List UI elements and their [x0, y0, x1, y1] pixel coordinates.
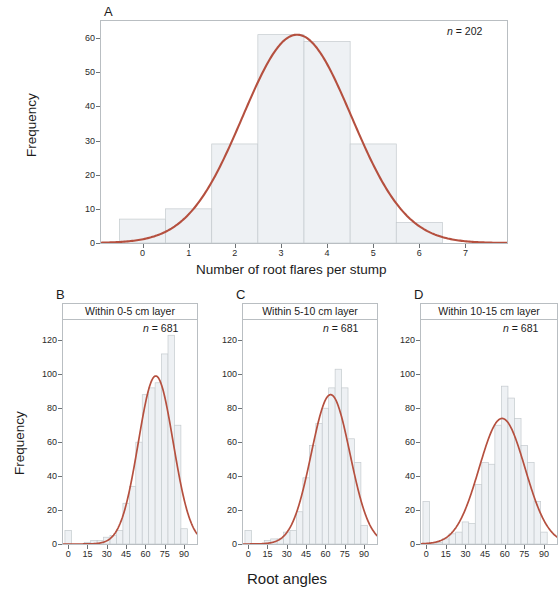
- histogram-bar: [541, 532, 548, 544]
- x-axis-tick-mark: [325, 545, 326, 549]
- x-axis-tick-label: 3: [278, 248, 283, 258]
- histogram-bar: [155, 383, 161, 544]
- x-axis-tick-mark: [287, 545, 288, 549]
- x-axis-tick-label: 6: [417, 248, 422, 258]
- y-axis-tick-mark: [238, 544, 242, 545]
- histogram-bar: [482, 463, 489, 544]
- y-axis-tick-mark: [58, 340, 62, 341]
- y-axis-tick-label: 40: [210, 471, 237, 481]
- histogram-bar: [462, 522, 469, 544]
- y-axis-tick-label: 20: [68, 170, 95, 180]
- histogram-bar: [423, 502, 430, 544]
- x-axis-tick-mark: [189, 244, 190, 248]
- x-axis-tick-mark: [544, 545, 545, 549]
- x-axis-tick-label: 2: [232, 248, 237, 258]
- histogram-bar: [136, 442, 142, 544]
- x-axis-tick-label: 60: [500, 549, 510, 559]
- x-axis-tick-label: 45: [480, 549, 490, 559]
- x-axis-tick-mark: [267, 545, 268, 549]
- x-axis-tick-label: 75: [160, 549, 170, 559]
- y-axis-tick-mark: [96, 38, 100, 39]
- x-axis-tick-mark: [419, 244, 420, 248]
- x-axis-tick-mark: [345, 545, 346, 549]
- x-axis-tick-label: 45: [301, 549, 311, 559]
- panel-c-n-value: 681: [341, 322, 359, 334]
- x-axis-tick-label: 90: [539, 549, 549, 559]
- y-axis-tick-mark: [416, 476, 420, 477]
- y-axis-tick-mark: [238, 510, 242, 511]
- y-axis-tick-label: 10: [68, 204, 95, 214]
- y-axis-tick-mark: [96, 106, 100, 107]
- y-axis-tick-mark: [416, 510, 420, 511]
- y-axis-tick-mark: [58, 374, 62, 375]
- x-axis-tick-mark: [126, 545, 127, 549]
- histogram-bar: [181, 529, 187, 544]
- y-axis-tick-mark: [96, 209, 100, 210]
- y-axis-tick-mark: [238, 340, 242, 341]
- x-axis-tick-mark: [281, 244, 282, 248]
- histogram-bar: [212, 144, 258, 243]
- x-axis-tick-label: 15: [441, 549, 451, 559]
- x-axis-tick-label: 7: [463, 248, 468, 258]
- y-axis-tick-label: 80: [30, 403, 57, 413]
- panel-b-n-eq: =: [149, 322, 161, 334]
- histogram-bar: [508, 398, 515, 544]
- bottom-row-x-axis-title: Root angles: [247, 570, 327, 587]
- y-axis-tick-mark: [96, 175, 100, 176]
- y-axis-tick-mark: [238, 374, 242, 375]
- histogram-bar: [258, 35, 304, 243]
- y-axis-tick-mark: [238, 476, 242, 477]
- x-axis-tick-label: 90: [359, 549, 369, 559]
- histogram-bar: [528, 463, 535, 544]
- panel-c-n-eq: =: [329, 322, 341, 334]
- panel-d-n-value: 681: [521, 322, 539, 334]
- bottom-row-y-axis-title: Frequency: [12, 411, 27, 475]
- x-axis-tick-label: 30: [282, 549, 292, 559]
- histogram-bar: [361, 525, 367, 544]
- histogram-bar: [322, 408, 328, 544]
- panel-b-title: Within 0-5 cm layer: [62, 303, 198, 319]
- y-axis-tick-mark: [416, 374, 420, 375]
- histogram-bar: [329, 388, 335, 544]
- x-axis-tick-label: 75: [519, 549, 529, 559]
- y-axis-tick-label: 40: [68, 101, 95, 111]
- panel-b-n-label: n = 681: [143, 322, 178, 334]
- panel-a-letter: A: [104, 4, 113, 19]
- x-axis-tick-label: 15: [262, 549, 272, 559]
- histogram-bar: [342, 388, 348, 544]
- x-axis-tick-label: 0: [424, 549, 429, 559]
- y-axis-tick-mark: [58, 544, 62, 545]
- histogram-bar: [304, 41, 350, 243]
- y-axis-tick-label: 0: [68, 238, 95, 248]
- y-axis-tick-mark: [96, 243, 100, 244]
- x-axis-tick-label: 5: [371, 248, 376, 258]
- y-axis-tick-mark: [238, 408, 242, 409]
- y-axis-tick-mark: [416, 442, 420, 443]
- panel-a-n-value: 202: [465, 25, 483, 37]
- histogram-bar: [149, 388, 155, 544]
- y-axis-tick-label: 100: [388, 369, 415, 379]
- y-axis-tick-mark: [416, 544, 420, 545]
- y-axis-tick-mark: [238, 442, 242, 443]
- y-axis-tick-label: 30: [68, 136, 95, 146]
- x-axis-tick-mark: [87, 545, 88, 549]
- y-axis-tick-label: 120: [210, 335, 237, 345]
- histogram-bar: [162, 354, 168, 544]
- x-axis-tick-label: 1: [186, 248, 191, 258]
- histogram-bar: [129, 486, 135, 544]
- x-axis-tick-mark: [165, 545, 166, 549]
- y-axis-tick-label: 20: [388, 505, 415, 515]
- figure-root: A 0102030405060 01234567 n = 202 Frequen…: [0, 0, 558, 591]
- x-axis-tick-label: 0: [140, 248, 145, 258]
- histogram-bar: [245, 530, 251, 544]
- y-axis-tick-label: 100: [30, 369, 57, 379]
- x-axis-tick-mark: [143, 244, 144, 248]
- histogram-bar: [348, 439, 354, 544]
- y-axis-tick-label: 60: [210, 437, 237, 447]
- y-axis-tick-label: 100: [210, 369, 237, 379]
- histogram-bar: [296, 512, 302, 544]
- x-axis-tick-label: 0: [66, 549, 71, 559]
- x-axis-tick-mark: [465, 545, 466, 549]
- x-axis-tick-mark: [446, 545, 447, 549]
- panel-d-letter: D: [414, 287, 424, 302]
